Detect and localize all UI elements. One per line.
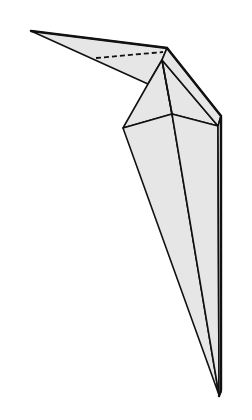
origami-diagram xyxy=(0,0,252,420)
origami-figure xyxy=(0,0,252,420)
